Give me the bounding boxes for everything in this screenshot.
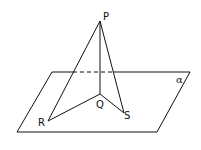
- label-R: R: [38, 117, 45, 128]
- plane-right-edge: [157, 72, 190, 132]
- tetrahedron-edges: [48, 21, 124, 121]
- geometry-diagram: P Q R S α: [0, 0, 201, 150]
- label-S: S: [124, 110, 130, 121]
- plane-left-edge: [17, 72, 52, 132]
- edge-QR: [48, 94, 100, 121]
- edge-PR: [48, 21, 100, 121]
- label-plane-alpha: α: [176, 74, 183, 85]
- label-P: P: [103, 11, 109, 22]
- label-Q: Q: [96, 99, 104, 110]
